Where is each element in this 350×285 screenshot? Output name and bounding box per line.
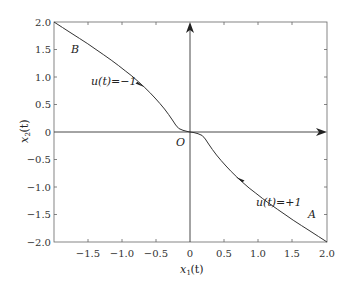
y-tick-label: −1.5 xyxy=(27,209,51,220)
curve-b-control-label: u(t)=−1 xyxy=(91,75,137,88)
y-axis-title: x 2 (t) xyxy=(18,119,32,143)
x-tick-label: 1.0 xyxy=(250,248,266,259)
x-tick-label: 0 xyxy=(187,248,193,259)
phase-plane-chart: 2.0 1.5 1.0 0.5 0 −0.5 −1.0 −1.5 −2.0 −1… xyxy=(0,0,350,285)
x-tick-label: −0.5 xyxy=(144,248,168,259)
x-axis-title: x 1 (t) xyxy=(180,263,204,277)
x-tick-label: 0.5 xyxy=(216,248,232,259)
y-tick-label: 0 xyxy=(45,127,51,138)
region-a-label: A xyxy=(307,208,316,221)
y-tick-label: 2.0 xyxy=(35,17,51,28)
x-tick-label: 2.0 xyxy=(319,248,335,259)
y-tick-label: 1.0 xyxy=(35,72,51,83)
origin-label: O xyxy=(176,136,185,149)
x-tick-label: −1.5 xyxy=(76,248,100,259)
y-tick-label: −2.0 xyxy=(27,237,51,248)
curve-a-control-label: u(t)=+1 xyxy=(256,196,302,209)
x-tick-label: −1.0 xyxy=(110,248,134,259)
y-tick-label: 0.5 xyxy=(35,99,51,110)
svg-text:(t): (t) xyxy=(191,263,204,276)
curve-a xyxy=(190,132,327,242)
x-tick-labels: −1.5 −1.0 −0.5 0 0.5 1.0 1.5 2.0 xyxy=(76,248,335,259)
svg-text:(t): (t) xyxy=(18,119,31,132)
region-b-label: B xyxy=(70,43,79,56)
y-tick-label: −0.5 xyxy=(27,154,51,165)
x-tick-label: 1.5 xyxy=(284,248,300,259)
y-tick-label: −1.0 xyxy=(27,182,51,193)
curve-a-arrow-icon xyxy=(236,177,245,182)
y-tick-label: 1.5 xyxy=(35,44,51,55)
